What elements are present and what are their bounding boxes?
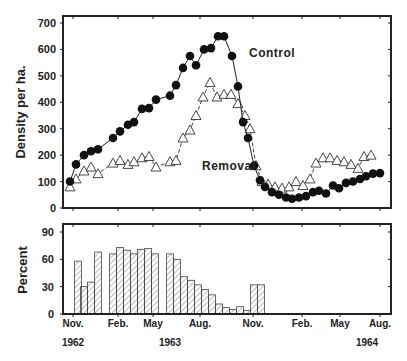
percent-bar xyxy=(167,254,174,314)
circle-marker xyxy=(261,183,270,192)
circle-marker xyxy=(116,127,125,136)
x-axis-month-labels: Nov.Feb.MayAug.Nov.Feb.MayAug. xyxy=(63,318,392,329)
x-tick-label: Nov. xyxy=(63,318,84,329)
lower-panel: 0306090 Percent xyxy=(15,224,391,320)
percent-bar xyxy=(117,247,124,314)
triangle-marker xyxy=(86,162,96,171)
percent-bars xyxy=(75,247,265,314)
percent-bar xyxy=(88,282,95,314)
y-tick-label: 100 xyxy=(38,176,56,188)
y-tick-label: 200 xyxy=(38,149,56,161)
upper-y-axis-label: Density per ha. xyxy=(13,65,28,158)
control-annotation: Control xyxy=(249,46,295,60)
circle-marker xyxy=(192,61,201,70)
triangle-marker xyxy=(291,177,301,186)
lower-y-axis-label: Percent xyxy=(15,245,30,293)
circle-marker xyxy=(66,177,75,186)
triangle-marker xyxy=(325,153,335,162)
triangle-marker xyxy=(366,150,376,159)
triangle-marker xyxy=(226,89,236,98)
percent-bar xyxy=(110,254,117,314)
circle-marker xyxy=(109,134,118,143)
y-tick-label: 0 xyxy=(48,308,54,320)
circle-marker xyxy=(244,134,253,143)
circle-marker xyxy=(145,104,154,113)
y-tick-label: 90 xyxy=(42,226,54,238)
year-label: 1964 xyxy=(356,337,379,348)
year-label: 1962 xyxy=(62,337,85,348)
y-tick-label: 30 xyxy=(42,281,54,293)
percent-bar xyxy=(81,287,88,314)
percent-bar xyxy=(209,295,216,314)
upper-panel: 0100200300400500600700 Control Removal D… xyxy=(13,16,391,214)
y-tick-label: 600 xyxy=(38,43,56,55)
circle-marker xyxy=(220,32,229,41)
x-tick-label: Aug. xyxy=(189,318,211,329)
y-tick-label: 300 xyxy=(38,123,56,135)
density-chart-figure: 0100200300400500600700 Control Removal D… xyxy=(0,0,407,361)
percent-bar xyxy=(188,280,195,314)
x-tick-label: Aug. xyxy=(369,318,391,329)
y-tick-label: 60 xyxy=(42,253,54,265)
percent-bar xyxy=(131,254,138,314)
circle-marker xyxy=(172,81,181,90)
circle-marker xyxy=(335,184,344,193)
x-tick-label: May xyxy=(330,318,350,329)
circle-marker xyxy=(186,52,195,61)
triangle-marker xyxy=(191,110,201,119)
y-tick-label: 500 xyxy=(38,70,56,82)
triangle-marker xyxy=(233,99,243,108)
circle-marker xyxy=(234,82,243,91)
x-tick-label: Nov. xyxy=(243,318,264,329)
percent-bar xyxy=(95,252,102,314)
x-tick-label: Feb. xyxy=(108,318,129,329)
triangle-marker xyxy=(115,155,125,164)
percent-bar xyxy=(124,250,131,314)
triangle-marker xyxy=(171,155,181,164)
x-tick-label: Feb. xyxy=(292,318,313,329)
control-series xyxy=(66,32,385,203)
circle-marker xyxy=(376,169,385,178)
removal-annotation: Removal xyxy=(202,159,256,173)
percent-bar xyxy=(202,289,209,314)
triangle-marker xyxy=(185,125,195,134)
y-tick-label: 0 xyxy=(50,202,56,214)
circle-marker xyxy=(207,44,216,53)
y-tick-label: 400 xyxy=(38,96,56,108)
percent-bar xyxy=(237,307,244,314)
circle-marker xyxy=(322,189,331,198)
percent-bar xyxy=(174,259,181,314)
circle-marker xyxy=(179,64,188,73)
circle-marker xyxy=(130,118,139,127)
circle-marker xyxy=(72,160,81,169)
triangle-marker xyxy=(198,92,208,101)
triangle-marker xyxy=(305,174,315,183)
circle-marker xyxy=(152,95,161,104)
triangle-marker xyxy=(245,124,255,133)
percent-bar xyxy=(251,285,258,314)
year-label: 1963 xyxy=(159,337,182,348)
triangle-marker xyxy=(205,77,215,86)
triangle-marker xyxy=(144,151,154,160)
percent-bar xyxy=(145,248,152,314)
percent-bar xyxy=(152,254,159,314)
triangle-marker xyxy=(151,162,161,171)
circle-marker xyxy=(94,145,103,154)
circle-marker xyxy=(166,91,175,100)
y-tick-label: 700 xyxy=(38,17,56,29)
percent-bar xyxy=(216,304,223,314)
x-tick-label: May xyxy=(143,318,163,329)
percent-bar xyxy=(258,285,265,314)
percent-bar xyxy=(138,249,145,314)
percent-bar xyxy=(195,285,202,314)
x-axis-year-labels: 196219631964 xyxy=(62,337,379,348)
circle-marker xyxy=(239,118,248,127)
circle-marker xyxy=(228,52,237,61)
percent-bar xyxy=(181,277,188,314)
